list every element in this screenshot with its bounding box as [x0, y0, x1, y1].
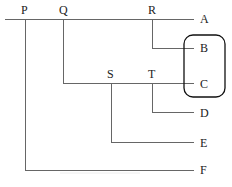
- label-p: P: [21, 4, 28, 16]
- label-d: D: [200, 107, 209, 119]
- label-a: A: [200, 13, 209, 25]
- label-e: E: [200, 137, 207, 149]
- diagram-lines: [0, 0, 232, 187]
- label-s: S: [107, 68, 114, 80]
- label-c: C: [200, 78, 208, 90]
- label-q: Q: [59, 4, 68, 16]
- label-r: R: [148, 4, 156, 16]
- label-f: F: [200, 164, 207, 176]
- label-b: B: [200, 42, 208, 54]
- label-t: T: [148, 68, 155, 80]
